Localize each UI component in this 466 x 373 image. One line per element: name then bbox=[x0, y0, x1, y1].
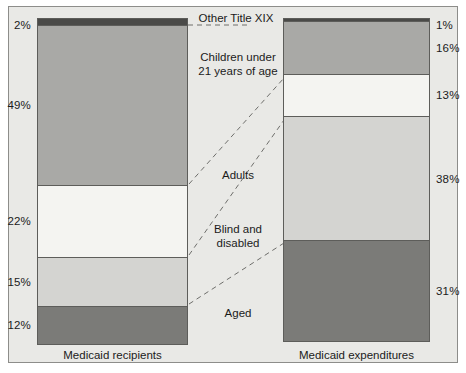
bar-segment-aged[interactable]: 31% bbox=[283, 240, 430, 341]
bar-segment-value-label: 2% bbox=[14, 19, 31, 31]
bar-segment-value-label: 31% bbox=[436, 285, 460, 297]
bar-segment-value-label: 16% bbox=[436, 42, 460, 54]
bar-segment-value-label: 13% bbox=[436, 89, 460, 101]
stacked-bar-chart: 2% 49% 22% 15% 12% 1% 16% 13% 38% 31% bbox=[0, 0, 466, 373]
bar-segment-value-label: 12% bbox=[7, 319, 31, 331]
bar-segment-value-label: 22% bbox=[7, 215, 31, 227]
bar-segment-children[interactable]: 49% bbox=[37, 25, 188, 185]
bar-caption-medicaid-recipients: Medicaid recipients bbox=[37, 349, 188, 361]
bar-segment-adults[interactable]: 13% bbox=[283, 74, 430, 117]
bar-medicaid-recipients: 2% 49% 22% 15% 12% bbox=[37, 18, 188, 345]
bar-medicaid-expenditures: 1% 16% 13% 38% 31% bbox=[283, 18, 430, 345]
bar-segment-aged[interactable]: 12% bbox=[37, 306, 188, 345]
category-label-aged: Aged bbox=[194, 306, 282, 320]
bar-segment-adults[interactable]: 22% bbox=[37, 185, 188, 257]
bar-segment-value-label: 15% bbox=[7, 276, 31, 288]
bar-segment-value-label: 38% bbox=[436, 173, 460, 185]
bar-segment-value-label: 1% bbox=[436, 19, 453, 31]
bar-caption-medicaid-expenditures: Medicaid expenditures bbox=[283, 349, 430, 361]
bar-segment-children[interactable]: 16% bbox=[283, 21, 430, 73]
category-label-adults: Adults bbox=[192, 168, 284, 182]
category-label-blind-and-disabled: Blind and disabled bbox=[190, 222, 286, 250]
bar-segment-blind-and-disabled[interactable]: 15% bbox=[37, 257, 188, 306]
bar-segment-value-label: 49% bbox=[7, 99, 31, 111]
category-label-other-title-xix: Other Title XIX bbox=[189, 11, 283, 25]
category-label-children: Children under 21 years of age bbox=[190, 50, 286, 78]
bar-segment-blind-and-disabled[interactable]: 38% bbox=[283, 116, 430, 240]
